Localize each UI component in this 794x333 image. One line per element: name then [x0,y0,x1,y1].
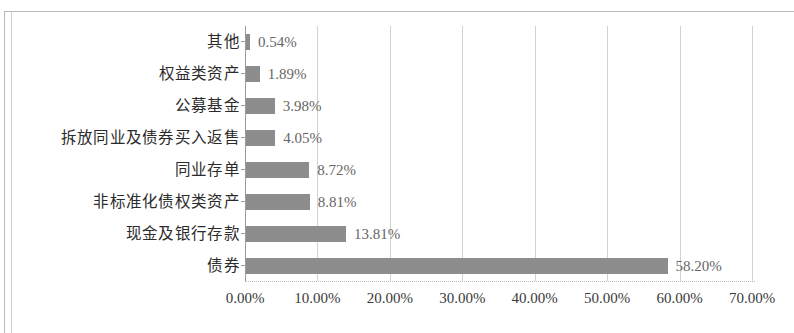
category-label: 债券 [207,250,240,282]
category-tick-mark [241,105,245,106]
x-tick-label: 70.00% [729,288,775,308]
x-tick-label: 10.00% [294,288,340,308]
x-tick-label: 0.00% [226,288,265,308]
bar-container [246,58,260,90]
category-label: 公募基金 [175,90,240,122]
bar-value-label: 1.89% [268,58,307,90]
category-label: 其他 [207,26,240,58]
bar-value-label: 58.20% [676,250,722,282]
category-label: 拆放同业及债券买入返售 [61,122,240,154]
bar [246,162,309,178]
bar-row: 公募基金3.98% [0,90,794,122]
bar-container [246,26,250,58]
category-tick-mark [241,169,245,170]
x-tick-label: 20.00% [367,288,413,308]
category-tick-mark [241,73,245,74]
bar-container [246,90,275,122]
x-tick-label: 40.00% [512,288,558,308]
bar [246,258,668,274]
x-axis-tick-labels: 0.00%10.00%20.00%30.00%40.00%50.00%60.00… [0,288,794,312]
bar [246,98,275,114]
category-tick-mark [241,265,245,266]
bar-value-label: 8.81% [318,186,357,218]
bar-row: 非标准化债权类资产8.81% [0,186,794,218]
x-tick-label: 60.00% [656,288,702,308]
category-label: 现金及银行存款 [126,218,240,250]
x-tick-label: 50.00% [584,288,630,308]
bar [246,34,250,50]
bar-container [246,218,346,250]
bar [246,66,260,82]
category-label: 权益类资产 [159,58,241,90]
category-tick-mark [241,201,245,202]
bar-value-label: 8.72% [317,154,356,186]
bar-container [246,250,668,282]
bar [246,130,275,146]
category-tick-mark [241,233,245,234]
category-label: 非标准化债权类资产 [93,186,240,218]
bar-row: 现金及银行存款13.81% [0,218,794,250]
horizontal-bar-chart: 其他0.54%权益类资产1.89%公募基金3.98%拆放同业及债券买入返售4.0… [0,0,794,333]
category-tick-mark [241,137,245,138]
bar-value-label: 3.98% [283,90,322,122]
x-tick-label: 30.00% [439,288,485,308]
bar [246,194,310,210]
bar-value-label: 0.54% [258,26,297,58]
bar-container [246,154,309,186]
category-label: 同业存单 [175,154,240,186]
bar-row: 同业存单8.72% [0,154,794,186]
bar-row: 其他0.54% [0,26,794,58]
bar-value-label: 13.81% [354,218,400,250]
bar-row: 拆放同业及债券买入返售4.05% [0,122,794,154]
category-tick-mark [241,41,245,42]
bar-row: 权益类资产1.89% [0,58,794,90]
bar-container [246,186,310,218]
bar-value-label: 4.05% [283,122,322,154]
bar [246,226,346,242]
bar-container [246,122,275,154]
bar-row: 债券58.20% [0,250,794,282]
